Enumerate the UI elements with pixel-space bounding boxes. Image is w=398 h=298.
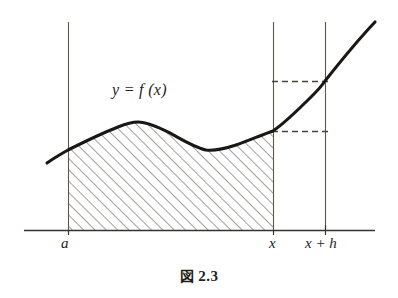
figure-page: y = f (x) a x x + h 図 2.3	[0, 0, 398, 298]
function-curve-label: y = f (x)	[112, 82, 167, 98]
axis-label-x: x	[269, 236, 276, 251]
axis-label-x-plus-h: x + h	[305, 236, 337, 251]
figure-caption-prefix: 図	[180, 268, 195, 284]
axis-label-a: a	[61, 236, 69, 251]
figure-canvas	[0, 0, 398, 298]
figure-caption: 図 2.3	[0, 265, 398, 285]
shaded-integral-region	[60, 110, 285, 240]
figure-caption-number: 2.3	[198, 268, 218, 284]
